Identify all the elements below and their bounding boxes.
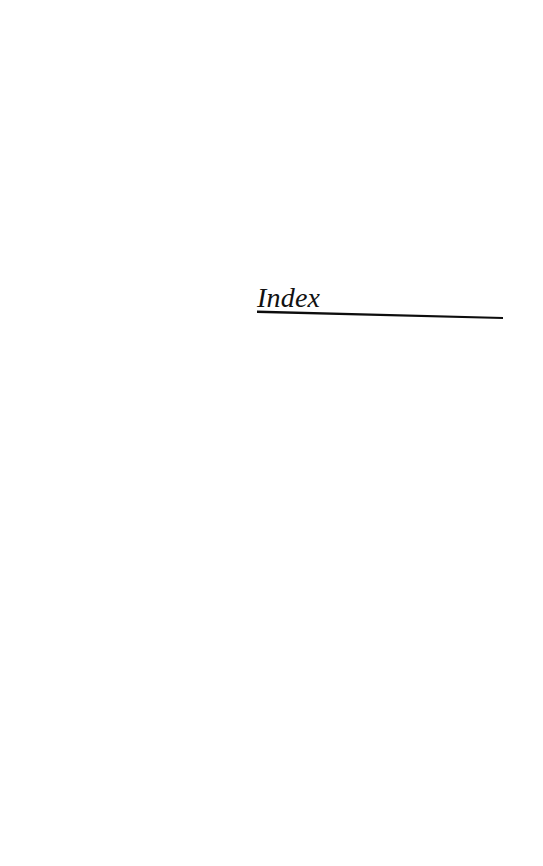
page-title: Index <box>257 283 320 313</box>
index-page: Index <box>0 0 543 866</box>
section-heading: Index <box>257 283 503 323</box>
